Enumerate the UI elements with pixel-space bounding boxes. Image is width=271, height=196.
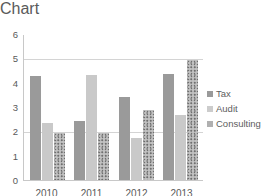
y-axis-tick-label: 6: [4, 30, 18, 40]
bar-tax-2010[interactable]: [30, 76, 41, 180]
x-axis-tick-label: 2012: [114, 188, 159, 196]
bar-audit-2010[interactable]: [42, 123, 53, 180]
y-axis-tick-label: 4: [4, 79, 18, 89]
legend-item-audit[interactable]: Audit: [207, 101, 271, 116]
legend-swatch-icon: [207, 91, 213, 97]
plot-area: [23, 35, 203, 181]
legend-item-tax[interactable]: Tax: [207, 86, 271, 101]
bar-group: [159, 35, 204, 180]
legend-item-label: Tax: [216, 88, 231, 99]
legend-item-label: Audit: [216, 103, 238, 114]
legend-swatch-icon: [207, 121, 213, 127]
bar-audit-2012[interactable]: [131, 138, 142, 180]
legend-item-consulting[interactable]: Consulting: [207, 116, 271, 131]
legend-swatch-icon: [207, 106, 213, 112]
bar-consulting-2013[interactable]: [187, 60, 198, 180]
chart-legend: TaxAuditConsulting: [207, 86, 271, 131]
x-axis-tick-label: 2013: [159, 188, 204, 196]
bar-group: [70, 35, 115, 180]
bar-chart: 6543210 2010201120122013 TaxAuditConsult…: [0, 18, 271, 196]
y-axis-tick-label: 3: [4, 103, 18, 113]
bar-tax-2012[interactable]: [119, 97, 130, 180]
bar-audit-2013[interactable]: [175, 115, 186, 180]
bar-consulting-2010[interactable]: [54, 133, 65, 180]
bar-groups: [25, 35, 203, 180]
y-axis-tick-label: 0: [4, 176, 18, 186]
bar-consulting-2011[interactable]: [98, 133, 109, 180]
y-axis: 6543210: [4, 18, 18, 196]
bar-tax-2011[interactable]: [74, 121, 85, 180]
y-axis-tick-label: 5: [4, 54, 18, 64]
legend-item-label: Consulting: [216, 118, 261, 129]
bar-group: [25, 35, 70, 180]
bar-group: [114, 35, 159, 180]
bar-audit-2011[interactable]: [86, 75, 97, 180]
x-axis: 2010201120122013: [24, 188, 204, 196]
y-axis-tick-label: 2: [4, 127, 18, 137]
x-axis-tick-label: 2010: [24, 188, 69, 196]
y-axis-tick-label: 1: [4, 152, 18, 162]
bar-consulting-2012[interactable]: [143, 110, 154, 180]
x-axis-tick-label: 2011: [69, 188, 114, 196]
bar-tax-2013[interactable]: [163, 74, 174, 180]
x-axis-baseline: [24, 180, 203, 181]
